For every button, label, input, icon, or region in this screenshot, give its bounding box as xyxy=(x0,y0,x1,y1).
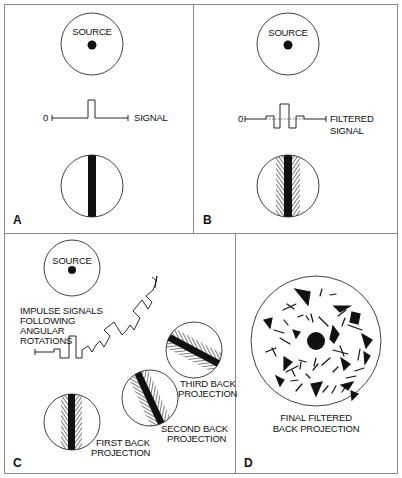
panel-letter-a: A xyxy=(13,213,22,227)
projection-band-a xyxy=(88,154,96,218)
panel-a-graphics xyxy=(52,13,128,218)
source-label-b: SOURCE xyxy=(258,28,318,38)
panel-letter-b: B xyxy=(203,213,212,227)
panel-letter-d: D xyxy=(244,456,253,470)
zero-label-b: 0 xyxy=(238,114,243,124)
filtered-signal-trace-b xyxy=(245,104,326,128)
panel-d-graphics xyxy=(251,276,381,406)
signal-label-b: SIGNAL xyxy=(330,126,364,136)
projection-band-b xyxy=(284,154,292,218)
zero-label-a: 0 xyxy=(43,113,48,123)
source-dot-a xyxy=(88,41,97,50)
source-dot-b xyxy=(284,41,293,50)
first-label-line: PROJECTION xyxy=(91,448,150,458)
third-label-line: PROJECTION xyxy=(178,389,237,399)
source-label-c: SOURCE xyxy=(42,256,102,266)
impulse-label-line: ROTATIONS xyxy=(20,336,72,346)
filtered-label-b: FILTERED xyxy=(330,114,374,124)
reconstructed-source-dot xyxy=(307,332,325,350)
signal-label-a: SIGNAL xyxy=(134,113,168,123)
figure-canvas xyxy=(0,0,402,478)
final-label-line: FINAL FILTERED xyxy=(266,413,366,423)
signal-trace-a xyxy=(52,100,128,118)
final-label-line: BACK PROJECTION xyxy=(266,424,366,434)
panel-c-graphics xyxy=(35,240,227,452)
panel-letter-c: C xyxy=(13,456,22,470)
second-label-line: PROJECTION xyxy=(167,434,226,444)
source-dot-c xyxy=(68,266,76,274)
panel-b-graphics xyxy=(245,13,326,218)
source-label-a: SOURCE xyxy=(62,27,122,37)
